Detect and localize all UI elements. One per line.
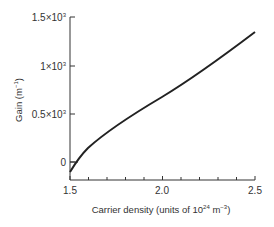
y-ticks: [70, 17, 75, 162]
x-tick-label-1.5: 1.5: [63, 185, 77, 196]
gain-chart: 1.5×103 1×103 0.5×103 0 1.5 2.0 2.5 Carr…: [0, 0, 274, 227]
gain-curve: [70, 32, 255, 172]
y-axis-title: Gain (m−1): [13, 78, 24, 122]
y-tick-label-1.5e3: 1.5×103: [32, 12, 67, 23]
x-ticks: [70, 176, 255, 180]
x-tick-label-2.0: 2.0: [155, 185, 169, 196]
y-tick-label-0: 0: [60, 157, 66, 168]
x-tick-label-2.5: 2.5: [248, 185, 262, 196]
y-tick-label-1e3: 1×103: [40, 61, 67, 72]
y-tick-label-0.5e3: 0.5×103: [32, 109, 67, 120]
x-axis-title: Carrier density (units of 1024 m−3): [92, 204, 231, 215]
